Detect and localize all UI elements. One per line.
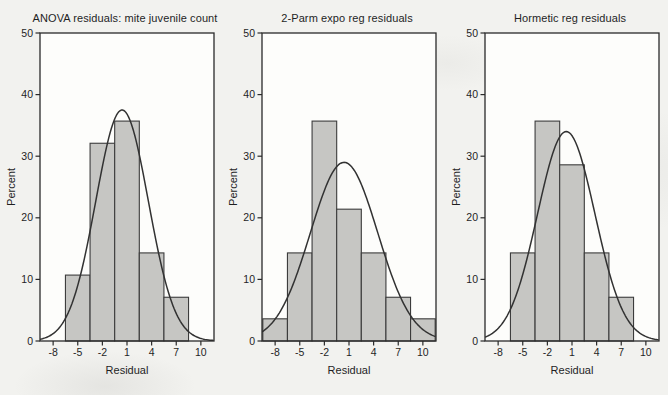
panel-hormetic-reg-residuals: Hormetic reg residuals Percent 010203040… bbox=[445, 0, 668, 395]
x-tick-label: -2 bbox=[320, 346, 329, 358]
histogram-expo-reg-residuals: 01020304050-8-5-214710 bbox=[222, 0, 445, 395]
y-tick-label: 0 bbox=[249, 335, 255, 347]
x-tick-label: -8 bbox=[48, 346, 57, 358]
x-tick-label: 7 bbox=[618, 346, 624, 358]
x-tick-label: 1 bbox=[569, 346, 575, 358]
x-tick-label: -5 bbox=[518, 346, 527, 358]
histogram-bar bbox=[560, 165, 585, 341]
x-tick-label: 10 bbox=[195, 346, 207, 358]
y-tick-label: 40 bbox=[243, 88, 255, 100]
y-tick-label: 30 bbox=[21, 150, 33, 162]
x-tick-label: -8 bbox=[270, 346, 279, 358]
panel-anova-residuals: ANOVA residuals: mite juvenile count Per… bbox=[0, 0, 223, 395]
x-tick-label: 4 bbox=[149, 346, 155, 358]
x-tick-label: 10 bbox=[640, 346, 652, 358]
x-axis-label: Residual bbox=[40, 364, 214, 376]
y-tick-label: 0 bbox=[27, 335, 33, 347]
x-tick-label: 7 bbox=[395, 346, 401, 358]
x-tick-label: 1 bbox=[124, 346, 130, 358]
histogram-bar bbox=[263, 319, 288, 341]
histogram-bar bbox=[609, 297, 634, 341]
x-tick-label: 4 bbox=[371, 346, 377, 358]
histogram-bar bbox=[115, 121, 140, 341]
histogram-bar bbox=[139, 253, 164, 341]
x-tick-label: 7 bbox=[173, 346, 179, 358]
histogram-bar bbox=[510, 253, 535, 341]
y-tick-label: 50 bbox=[243, 27, 255, 39]
x-tick-label: -2 bbox=[543, 346, 552, 358]
y-tick-label: 40 bbox=[466, 88, 478, 100]
x-tick-label: 10 bbox=[417, 346, 429, 358]
x-tick-label: -5 bbox=[295, 346, 304, 358]
residual-histograms-figure: ANOVA residuals: mite juvenile count Per… bbox=[0, 0, 668, 395]
y-tick-label: 20 bbox=[21, 211, 33, 223]
y-tick-label: 40 bbox=[21, 88, 33, 100]
panel-expo-reg-residuals: 2-Parm expo reg residuals Percent 010203… bbox=[222, 0, 445, 395]
x-axis-label: Residual bbox=[485, 364, 659, 376]
y-tick-label: 10 bbox=[21, 273, 33, 285]
histogram-bar bbox=[164, 297, 189, 341]
x-tick-label: -5 bbox=[73, 346, 82, 358]
histogram-anova-residuals: 01020304050-8-5-214710 bbox=[0, 0, 223, 395]
histogram-bar bbox=[386, 297, 411, 341]
y-tick-label: 50 bbox=[466, 27, 478, 39]
y-tick-label: 10 bbox=[243, 273, 255, 285]
y-tick-label: 20 bbox=[243, 211, 255, 223]
histogram-bar bbox=[90, 143, 115, 341]
x-tick-label: 1 bbox=[346, 346, 352, 358]
y-tick-label: 0 bbox=[472, 335, 478, 347]
x-tick-label: -8 bbox=[493, 346, 502, 358]
histogram-bar bbox=[535, 121, 560, 341]
histogram-bar bbox=[337, 209, 362, 341]
y-tick-label: 20 bbox=[466, 211, 478, 223]
y-tick-label: 30 bbox=[243, 150, 255, 162]
y-tick-label: 10 bbox=[466, 273, 478, 285]
x-tick-label: 4 bbox=[594, 346, 600, 358]
histogram-bar bbox=[361, 253, 386, 341]
x-axis-label: Residual bbox=[262, 364, 436, 376]
histogram-bar bbox=[312, 121, 337, 341]
y-tick-label: 50 bbox=[21, 27, 33, 39]
x-tick-label: -2 bbox=[98, 346, 107, 358]
y-tick-label: 30 bbox=[466, 150, 478, 162]
histogram-hormetic-reg-residuals: 01020304050-8-5-214710 bbox=[445, 0, 668, 395]
histogram-bar bbox=[584, 253, 609, 341]
